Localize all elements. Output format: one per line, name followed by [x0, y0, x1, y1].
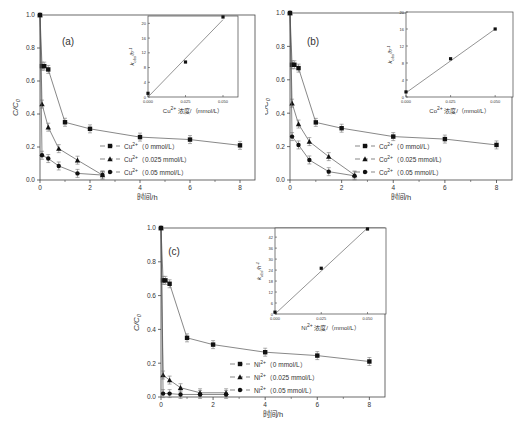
- data-point-square: [314, 120, 318, 124]
- legend-entry: Cu2+（0.05 mmol/L）: [124, 167, 188, 176]
- legend-entry: Co2+（0.05 mmol/L）: [379, 167, 443, 176]
- x-tick-label: 2: [211, 401, 215, 408]
- legend: Ni2+（0 mmol/L）Ni2+（0.025 mmol/L）Ni2+（0.0…: [230, 359, 319, 394]
- data-point-circle: [38, 13, 42, 17]
- inset-data-point: [404, 90, 407, 93]
- inset-y-tick: 20: [142, 21, 147, 26]
- y-tick-label: 0.6: [276, 76, 285, 83]
- chart-panel-b: 024680.00.20.40.60.81.0时间/hC/C0(b)Co2+（0…: [265, 0, 526, 204]
- data-point-triangle: [307, 139, 312, 144]
- y-tick-label: 0.8: [26, 44, 35, 51]
- y-tick-label: 0.4: [147, 326, 156, 333]
- y-axis-label: C/C0: [265, 97, 271, 115]
- y-tick-label: 0.6: [26, 77, 35, 84]
- data-point-circle: [296, 143, 300, 147]
- inset-y-tick: 36: [269, 246, 274, 251]
- legend-marker-square: [238, 362, 242, 366]
- legend-marker-circle: [108, 170, 112, 174]
- inset-y-label: kobs/h-1: [255, 262, 264, 280]
- inset-x-tick: 0.025: [180, 99, 191, 104]
- y-tick-label: 0.0: [26, 176, 35, 183]
- inset-chart: 061218243036420.0000.0250.050Ni2+ 浓度/（mm…: [255, 227, 387, 332]
- y-tick-label: 0.8: [147, 258, 156, 265]
- data-point-circle: [75, 171, 79, 175]
- inset-data-point: [494, 27, 497, 30]
- inset-chart: 0481216200.0000.0250.050Co2+ 浓度/（mmol/L）…: [386, 10, 514, 116]
- inset-x-tick: 0.025: [316, 316, 327, 321]
- legend-entry: Co2+（0 mmol/L）: [379, 141, 434, 150]
- inset-y-tick: 20: [400, 10, 405, 15]
- y-tick-label: 1.0: [147, 224, 156, 231]
- inset-x-label: Ni2+ 浓度/（mmol/L）: [301, 322, 359, 332]
- inset-y-tick: 8: [402, 61, 405, 66]
- data-point-circle: [161, 391, 165, 395]
- y-tick-label: 1.0: [276, 9, 285, 16]
- inset-y-tick: 4: [144, 80, 147, 85]
- inset-data-point: [184, 60, 187, 63]
- legend: Co2+（0 mmol/L）Co2+（0.025 mmol/L）Co2+（0.0…: [355, 141, 446, 176]
- inset-y-tick: 24: [269, 268, 274, 273]
- inset-x-tick: 0.000: [270, 316, 281, 321]
- inset-x-label: Cu2+ 浓度/（mmol/L）: [163, 105, 223, 115]
- data-point-square: [88, 127, 92, 131]
- legend-marker-square: [108, 144, 112, 148]
- chart-panel-a: 024680.00.20.40.60.81.0时间/hC/C0(a)Cu2+（0…: [0, 0, 265, 204]
- x-tick-label: 6: [443, 184, 447, 191]
- x-tick-label: 6: [188, 184, 192, 191]
- data-point-triangle: [75, 158, 80, 163]
- y-tick-label: 0.0: [276, 176, 285, 183]
- data-point-square: [46, 67, 50, 71]
- y-tick-label: 1.0: [26, 11, 35, 18]
- x-axis-label: 时间/h: [263, 409, 283, 419]
- legend-entry: Co2+（0.025 mmol/L）: [379, 154, 446, 163]
- figure-caption: [0, 420, 526, 432]
- inset-y-tick: 42: [269, 235, 274, 240]
- data-point-square: [185, 336, 189, 340]
- inset-y-tick: 6: [271, 301, 274, 306]
- data-point-square: [63, 120, 67, 124]
- x-tick-label: 2: [88, 184, 92, 191]
- x-tick-label: 8: [495, 184, 499, 191]
- y-tick-label: 0.0: [147, 393, 156, 400]
- legend-marker-circle: [363, 170, 367, 174]
- inset-y-tick: 12: [142, 50, 147, 55]
- data-point-circle: [46, 156, 50, 160]
- inset-y-tick: 12: [400, 44, 405, 49]
- inset-x-tick: 0.050: [218, 99, 229, 104]
- line-chart-ni: 024680.00.20.40.60.81.0时间/hC/C0(c)Ni2+（0…: [130, 220, 400, 420]
- x-axis-label: 时间/h: [391, 192, 411, 200]
- data-point-circle: [40, 153, 44, 157]
- data-point-square: [339, 126, 343, 130]
- data-point-triangle: [167, 377, 172, 382]
- legend-entry: Ni2+（0.025 mmol/L）: [254, 372, 319, 381]
- y-tick-label: 0.2: [276, 143, 285, 150]
- y-tick-label: 0.4: [26, 110, 35, 117]
- data-point-circle: [167, 391, 171, 395]
- x-tick-label: 0: [38, 184, 42, 191]
- data-point-circle: [288, 11, 292, 15]
- data-point-triangle: [178, 385, 183, 390]
- y-tick-label: 0.4: [276, 110, 285, 117]
- y-tick-label: 0.8: [276, 43, 285, 50]
- chart-panel-c: 024680.00.20.40.60.81.0时间/hC/C0(c)Ni2+（0…: [130, 220, 400, 424]
- y-axis-label: C/C0: [132, 313, 142, 331]
- data-point-triangle: [46, 125, 51, 130]
- x-tick-label: 2: [340, 184, 344, 191]
- legend-entry: Ni2+（0.05 mmol/L）: [254, 385, 316, 394]
- data-point-circle: [178, 392, 182, 396]
- inset-x-tick: 0.000: [143, 99, 154, 104]
- inset-x-tick: 0.000: [401, 99, 412, 104]
- data-point-square: [263, 350, 267, 354]
- data-point-square: [138, 135, 142, 139]
- inset-x-tick: 0.025: [446, 99, 457, 104]
- inset-data-point: [273, 311, 276, 314]
- x-tick-label: 0: [159, 401, 163, 408]
- x-tick-label: 4: [391, 184, 395, 191]
- line-chart-cu: 024680.00.20.40.60.81.0时间/hC/C0(a)Cu2+（0…: [0, 0, 265, 200]
- data-point-triangle: [56, 146, 61, 151]
- line-chart-co: 024680.00.20.40.60.81.0时间/hC/C0(b)Co2+（0…: [265, 0, 526, 200]
- data-point-square: [443, 137, 447, 141]
- inset-data-point: [146, 92, 149, 95]
- inset-y-tick: 8: [144, 65, 147, 70]
- data-point-square: [367, 359, 371, 363]
